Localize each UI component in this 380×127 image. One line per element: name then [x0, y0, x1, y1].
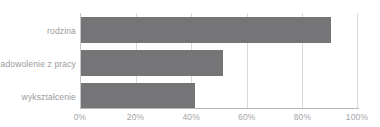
- bar-zadowolenie-z-pracy: [81, 50, 223, 76]
- x-tick-label-80: 80%: [282, 112, 322, 122]
- bar-chart: rodzina zadowolenie z pracy wykształceni…: [0, 0, 380, 127]
- x-tick-label-100: 100%: [337, 112, 377, 122]
- bar-wyksztalcenie: [81, 83, 195, 109]
- x-tick-label-40: 40%: [171, 112, 211, 122]
- chart-title: [0, 0, 380, 5]
- gridline-100: [357, 13, 358, 109]
- category-label-rodzina: rodzina: [0, 26, 76, 36]
- x-tick-label-60: 60%: [227, 112, 267, 122]
- plot-area: [80, 13, 358, 109]
- x-tick-label-0: 0%: [60, 112, 100, 122]
- category-label-wyksztalcenie: wykształcenie: [0, 92, 76, 102]
- category-label-zadowolenie-z-pracy: zadowolenie z pracy: [0, 59, 76, 69]
- x-axis-line: [80, 108, 359, 109]
- x-tick-label-20: 20%: [116, 112, 156, 122]
- bar-rodzina: [81, 17, 331, 43]
